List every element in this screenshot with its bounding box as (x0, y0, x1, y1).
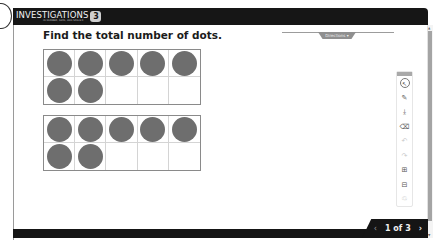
ten-frame-cell (169, 143, 200, 170)
ten-frame-cell (44, 116, 75, 143)
app-header: INVESTIGATIONS 3 IN NUMBER, DATA, AND SP… (13, 8, 428, 25)
ten-frame-cell (138, 77, 169, 104)
counter-dot (78, 117, 103, 142)
ten-frame-cell (44, 143, 75, 170)
counter-dot (78, 78, 103, 103)
question-title: Find the total number of dots. (43, 29, 222, 41)
ten-frame-cell (169, 116, 200, 143)
undo-icon: ↶ (402, 137, 408, 145)
tool-pen-button[interactable]: ✎ (397, 91, 412, 106)
page-count: 1 of 3 (385, 224, 411, 233)
ten-frame-cell (138, 50, 169, 77)
counter-dot (47, 117, 72, 142)
ten-frame-cell (75, 50, 106, 77)
tool-pointer-button[interactable]: ↖ (397, 76, 412, 91)
ten-frame-2 (43, 115, 201, 171)
tool-eraser-button[interactable]: ⌫ (397, 120, 412, 135)
tool-redo-button[interactable]: ↷ (397, 149, 412, 164)
scroll-down-arrow-icon[interactable]: ▼ (428, 233, 430, 237)
zoom-out-icon: ⊟ (402, 181, 408, 189)
trash-icon: ♲ (401, 195, 407, 203)
tool-stamp-button[interactable]: ⤓ (397, 105, 412, 120)
logo-badge-icon: 3 (90, 11, 101, 22)
ten-frame-cell (75, 116, 106, 143)
scroll-up-arrow-icon[interactable]: ▲ (428, 26, 430, 30)
pager: ‹ 1 of 3 › (362, 219, 428, 238)
investigations-logo: INVESTIGATIONS 3 IN NUMBER, DATA, AND SP… (16, 11, 101, 22)
ten-frame-cell (75, 77, 106, 104)
counter-dot (109, 51, 134, 76)
redo-icon: ↷ (402, 152, 408, 160)
zoom-in-icon: ⊞ (402, 166, 408, 174)
next-page-button[interactable]: › (419, 224, 422, 233)
pen-icon: ✎ (402, 94, 408, 102)
logo-subtitle: IN NUMBER, DATA, AND SPACE® (43, 19, 84, 22)
ten-frame-cell (106, 116, 137, 143)
ten-frame-cell (106, 77, 137, 104)
ten-frame-cell (138, 143, 169, 170)
annotation-toolbar: ↖✎⤓⌫↶↷⊞⊟♲ (396, 71, 413, 207)
ten-frame-cell (138, 116, 169, 143)
ten-frame-cell (169, 77, 200, 104)
tool-undo-button[interactable]: ↶ (397, 134, 412, 149)
circle-annotation (0, 3, 12, 29)
ten-frame-cell (106, 143, 137, 170)
counter-dot (78, 144, 103, 169)
pointer-icon: ↖ (400, 78, 410, 88)
ten-frame-cell (44, 50, 75, 77)
ten-frame-cell (44, 77, 75, 104)
counter-dot (47, 78, 72, 103)
ten-frame-cell (75, 143, 106, 170)
previous-page-button[interactable]: ‹ (374, 224, 377, 233)
counter-dot (78, 51, 103, 76)
scrollbar-thumb[interactable] (428, 31, 432, 221)
directions-tab[interactable]: Directions ▾ (318, 32, 356, 39)
ten-frame-cell (169, 50, 200, 77)
counter-dot (109, 117, 134, 142)
counter-dot (47, 51, 72, 76)
directions-tab-label: Directions ▾ (325, 33, 348, 38)
stamp-icon: ⤓ (403, 108, 406, 116)
tool-zoom-in-button[interactable]: ⊞ (397, 163, 412, 178)
counter-dot (140, 117, 165, 142)
counter-dot (47, 144, 72, 169)
counter-dot (140, 51, 165, 76)
ten-frame-cell (106, 50, 137, 77)
counter-dot (172, 51, 197, 76)
counter-dot (172, 117, 197, 142)
ten-frame-1 (43, 49, 201, 105)
eraser-icon: ⌫ (400, 123, 410, 131)
tool-zoom-out-button[interactable]: ⊟ (397, 178, 412, 193)
tool-trash-button[interactable]: ♲ (397, 192, 412, 207)
